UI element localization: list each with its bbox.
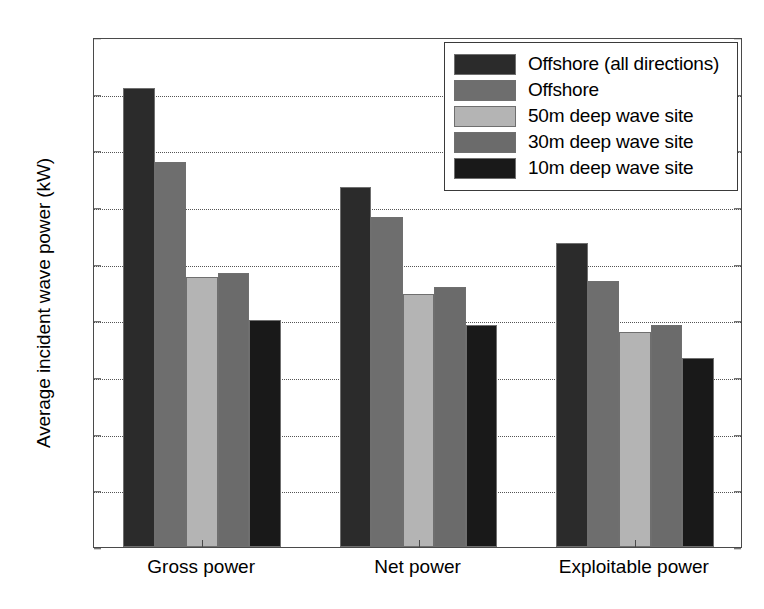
x-category-label: Net power (374, 556, 461, 578)
y-tick-mark (734, 265, 741, 266)
y-tick-mark (734, 492, 741, 493)
y-tick-mark (94, 548, 101, 549)
y-tick-mark (94, 322, 101, 323)
figure: Average incident wave power (kW) 0510152… (0, 0, 764, 609)
bar (466, 325, 498, 547)
legend-label: 10m deep wave site (528, 157, 693, 179)
legend-item: 50m deep wave site (454, 103, 728, 129)
legend-swatch (454, 54, 516, 75)
legend-item: 10m deep wave site (454, 155, 728, 181)
legend-label: 50m deep wave site (528, 105, 693, 127)
y-tick-mark (734, 38, 741, 39)
bar (186, 277, 218, 547)
y-tick-mark (734, 548, 741, 549)
legend-swatch (454, 132, 516, 153)
y-tick-mark (94, 435, 101, 436)
x-category-label: Gross power (147, 556, 255, 578)
y-tick-mark (94, 208, 101, 209)
bar (556, 243, 588, 547)
y-tick-mark (94, 95, 101, 96)
y-axis-title: Average incident wave power (kW) (33, 43, 55, 563)
y-tick-mark (734, 435, 741, 436)
y-tick-mark (94, 152, 101, 153)
legend-item: 30m deep wave site (454, 129, 728, 155)
legend-label: 30m deep wave site (528, 131, 693, 153)
y-tick-mark (94, 492, 101, 493)
y-tick-mark (734, 208, 741, 209)
bar (249, 320, 281, 547)
y-tick-mark (734, 378, 741, 379)
bar (371, 217, 403, 547)
y-tick-mark (94, 265, 101, 266)
x-tick-mark (419, 540, 420, 547)
bar (588, 281, 620, 547)
x-category-label: Exploitable power (559, 556, 709, 578)
x-tick-mark (202, 540, 203, 547)
y-tick-mark (734, 322, 741, 323)
legend-item: Offshore (454, 77, 728, 103)
bar (123, 88, 155, 547)
y-tick-mark (94, 38, 101, 39)
bar (619, 332, 651, 547)
x-tick-mark (635, 540, 636, 547)
bar (340, 187, 372, 547)
legend-swatch (454, 80, 516, 101)
bar (218, 273, 250, 547)
legend-label: Offshore (528, 79, 599, 101)
legend-item: Offshore (all directions) (454, 51, 728, 77)
y-tick-mark (94, 378, 101, 379)
legend: Offshore (all directions)Offshore50m dee… (444, 42, 738, 191)
bar (434, 287, 466, 547)
bar (651, 325, 683, 547)
legend-swatch (454, 158, 516, 179)
bar (155, 162, 187, 547)
legend-swatch (454, 106, 516, 127)
gridline (94, 266, 741, 267)
bar (682, 358, 714, 547)
legend-label: Offshore (all directions) (528, 53, 719, 75)
bar (403, 294, 435, 547)
gridline (94, 209, 741, 210)
